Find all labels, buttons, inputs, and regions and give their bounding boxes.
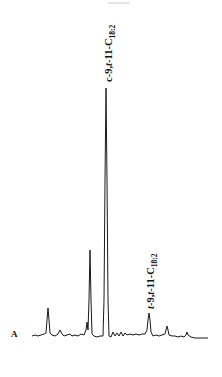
label-c9t11-sub: 18:2	[108, 25, 117, 39]
peak-label-c9t11: c-9,t-11-C18:2	[103, 25, 117, 82]
panel-label: A	[11, 329, 18, 339]
peak-label-t9t11: t-9,t-11-C18:2	[145, 253, 159, 309]
label-c9t11-mid: -11-C	[103, 39, 114, 64]
chromatogram-chart: c-9,t-11-C18:2 t-9,t-11-C18:2 A	[0, 0, 222, 377]
svg-text:c-9,t-11-C18:2: c-9,t-11-C18:2	[103, 25, 117, 82]
label-t9t11-mid1: -9,	[145, 294, 156, 306]
label-t9t11-mid: -11-C	[145, 267, 156, 292]
label-c9t11-prefix: c-9,	[103, 66, 114, 82]
chromatogram-trace	[32, 88, 208, 338]
label-t9t11-sub: 18:2	[150, 253, 159, 267]
top-artifact	[108, 2, 130, 4]
svg-text:t-9,t-11-C18:2: t-9,t-11-C18:2	[145, 253, 159, 309]
